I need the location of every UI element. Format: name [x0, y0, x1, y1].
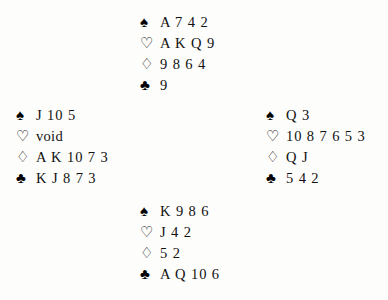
hand-east-spades-row: ♠ Q 3	[266, 105, 366, 126]
hand-west-hearts-row: ♡ void	[16, 126, 109, 147]
heart-icon: ♡	[140, 33, 156, 54]
diamond-icon: ♢	[140, 54, 156, 75]
heart-icon: ♡	[266, 126, 282, 147]
hand-north-diamonds-row: ♢ 9 8 6 4	[140, 54, 215, 75]
hand-north-spades-row: ♠ A 7 4 2	[140, 12, 215, 33]
hand-east-clubs-row: ♣ 5 4 2	[266, 168, 366, 189]
spade-icon: ♠	[140, 201, 156, 222]
hand-north-hearts-cards: A K Q 9	[160, 33, 215, 54]
hand-south-clubs-cards: A Q 10 6	[160, 264, 220, 285]
hand-south-clubs-row: ♣ A Q 10 6	[140, 264, 220, 285]
hand-north-hearts-row: ♡ A K Q 9	[140, 33, 215, 54]
hand-east-hearts-cards: 10 8 7 6 5 3	[286, 126, 366, 147]
spade-icon: ♠	[140, 12, 156, 33]
hand-south-diamonds-cards: 5 2	[160, 243, 181, 264]
club-icon: ♣	[140, 75, 156, 96]
club-icon: ♣	[140, 264, 156, 285]
hand-north-clubs-row: ♣ 9	[140, 75, 215, 96]
heart-icon: ♡	[16, 126, 32, 147]
hand-west-hearts-cards: void	[36, 126, 63, 147]
hand-east-diamonds-row: ♢ Q J	[266, 147, 366, 168]
hand-west-clubs-row: ♣ K J 8 7 3	[16, 168, 109, 189]
hand-east-hearts-row: ♡ 10 8 7 6 5 3	[266, 126, 366, 147]
hand-north-clubs-cards: 9	[160, 75, 168, 96]
hand-south-diamonds-row: ♢ 5 2	[140, 243, 220, 264]
spade-icon: ♠	[16, 105, 32, 126]
hand-east-spades-cards: Q 3	[286, 105, 310, 126]
club-icon: ♣	[16, 168, 32, 189]
hand-west-diamonds-row: ♢ A K 10 7 3	[16, 147, 109, 168]
hand-north: ♠ A 7 4 2 ♡ A K Q 9 ♢ 9 8 6 4 ♣ 9	[140, 12, 215, 96]
diamond-icon: ♢	[16, 147, 32, 168]
hand-east-clubs-cards: 5 4 2	[286, 168, 320, 189]
spade-icon: ♠	[266, 105, 282, 126]
hand-west-spades-cards: J 10 5	[36, 105, 76, 126]
hand-south-hearts-cards: J 4 2	[160, 222, 192, 243]
hand-south-spades-cards: K 9 8 6	[160, 201, 209, 222]
hand-east-diamonds-cards: Q J	[286, 147, 308, 168]
hand-west-spades-row: ♠ J 10 5	[16, 105, 109, 126]
hand-west: ♠ J 10 5 ♡ void ♢ A K 10 7 3 ♣ K J 8 7 3	[16, 105, 109, 189]
heart-icon: ♡	[140, 222, 156, 243]
hand-south-hearts-row: ♡ J 4 2	[140, 222, 220, 243]
hand-west-diamonds-cards: A K 10 7 3	[36, 147, 109, 168]
diamond-icon: ♢	[140, 243, 156, 264]
club-icon: ♣	[266, 168, 282, 189]
bridge-deal-diagram: ♠ A 7 4 2 ♡ A K Q 9 ♢ 9 8 6 4 ♣ 9 ♠ J 10…	[0, 0, 388, 300]
hand-north-spades-cards: A 7 4 2	[160, 12, 209, 33]
hand-south-spades-row: ♠ K 9 8 6	[140, 201, 220, 222]
hand-south: ♠ K 9 8 6 ♡ J 4 2 ♢ 5 2 ♣ A Q 10 6	[140, 201, 220, 285]
hand-north-diamonds-cards: 9 8 6 4	[160, 54, 206, 75]
hand-west-clubs-cards: K J 8 7 3	[36, 168, 96, 189]
hand-east: ♠ Q 3 ♡ 10 8 7 6 5 3 ♢ Q J ♣ 5 4 2	[266, 105, 366, 189]
diamond-icon: ♢	[266, 147, 282, 168]
